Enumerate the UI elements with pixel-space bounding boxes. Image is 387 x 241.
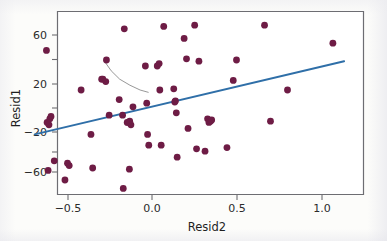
scatter-point: [102, 78, 109, 85]
scatter-point: [158, 142, 165, 149]
scatter-point: [43, 47, 50, 54]
y-tick-label-20: 20: [33, 78, 47, 91]
scatter-point: [267, 118, 274, 125]
scatter-point: [121, 25, 128, 32]
x-axis-title: Resid2: [188, 220, 226, 234]
scatter-point: [156, 87, 163, 94]
scatter-point: [174, 154, 181, 161]
scatter-point: [78, 87, 85, 94]
scatter-point: [284, 87, 291, 94]
scatter-point: [128, 121, 135, 128]
y-axis-ticks: [52, 35, 57, 172]
scatter-point: [172, 97, 179, 104]
x-axis-tick-labels: −0.5 0.0 0.5 1.0: [55, 202, 331, 215]
x-tick-label-10: 1.0: [313, 202, 331, 215]
scatter-point: [119, 112, 126, 119]
scatter-point: [156, 60, 163, 67]
scatter-point: [170, 85, 177, 92]
scatter-point: [191, 22, 198, 29]
x-tick-label-minus05: −0.5: [55, 202, 82, 215]
scatter-point: [120, 185, 127, 192]
scatter-point: [185, 125, 192, 132]
scatter-point: [261, 22, 268, 29]
scatter-point: [160, 23, 167, 30]
scatter-point: [183, 55, 190, 62]
scatter-point: [51, 157, 58, 164]
scatter-point: [145, 142, 152, 149]
x-axis-ticks: [68, 195, 322, 200]
scatter-point: [142, 63, 149, 70]
y-axis-title: Resid1: [9, 89, 23, 127]
x-tick-label-0: 0.0: [143, 202, 161, 215]
scatter-point: [224, 144, 231, 151]
y-tick-label-minus60: −60: [24, 166, 47, 179]
scatter-point: [48, 113, 55, 120]
scatter-point: [46, 121, 53, 128]
x-tick-label-05: 0.5: [228, 202, 246, 215]
scatter-point: [88, 131, 95, 138]
resid1-vs-resid2-scatterplot: 60 20 −20 −60 −0.5 0.0 0.5 1.0 Resid2 Re…: [0, 0, 387, 241]
scatter-point: [208, 117, 215, 124]
scatter-point: [103, 57, 110, 64]
scatter-point: [233, 57, 240, 64]
scatterplot-screenshot: 60 20 −20 −60 −0.5 0.0 0.5 1.0 Resid2 Re…: [0, 0, 387, 241]
scatter-point: [196, 58, 203, 65]
plot-panel-background: [57, 11, 364, 195]
scatter-point: [181, 35, 188, 42]
scatter-point: [45, 167, 52, 174]
scatter-point: [173, 109, 180, 116]
scatter-point: [230, 77, 237, 84]
scatter-point: [193, 145, 200, 152]
scatter-point: [89, 165, 96, 172]
scatter-point: [116, 96, 123, 103]
scatter-point: [106, 112, 113, 119]
scatter-point: [126, 166, 133, 173]
scatter-point: [62, 177, 69, 184]
scatter-point: [143, 100, 150, 107]
scatter-point: [130, 103, 137, 110]
y-tick-label-60: 60: [33, 29, 47, 42]
scatter-point: [202, 148, 209, 155]
scatter-point: [329, 40, 336, 47]
scatter-point: [66, 162, 73, 169]
scatter-point: [144, 131, 151, 138]
